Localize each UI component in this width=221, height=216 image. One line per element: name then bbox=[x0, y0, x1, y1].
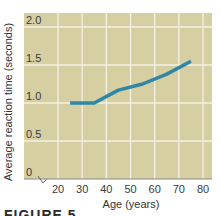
line-chart: 00.51.01.52.0 20304050607080 Age (years)… bbox=[0, 0, 221, 216]
y-tick-label: 1.0 bbox=[26, 90, 41, 102]
y-tick-label: 1.5 bbox=[26, 52, 41, 64]
x-axis-label: Age (years) bbox=[103, 198, 160, 210]
y-tick-label: 0.5 bbox=[26, 128, 41, 140]
y-axis-label: Average reaction time (seconds) bbox=[2, 23, 14, 181]
y-tick-label: 2.0 bbox=[26, 14, 41, 26]
x-tick-label: 20 bbox=[52, 183, 64, 195]
x-tick-label: 80 bbox=[197, 183, 209, 195]
x-tick-label: 40 bbox=[100, 183, 112, 195]
x-tick-label: 60 bbox=[149, 183, 161, 195]
x-tick-label: 50 bbox=[124, 183, 136, 195]
y-tick-label: 0 bbox=[26, 166, 32, 178]
x-tick-label: 30 bbox=[76, 183, 88, 195]
figure-caption: FIGURE 5 bbox=[4, 208, 77, 216]
x-axis-ticks: 20304050607080 bbox=[52, 183, 209, 195]
x-tick-label: 70 bbox=[173, 183, 185, 195]
plot-background bbox=[24, 13, 212, 179]
